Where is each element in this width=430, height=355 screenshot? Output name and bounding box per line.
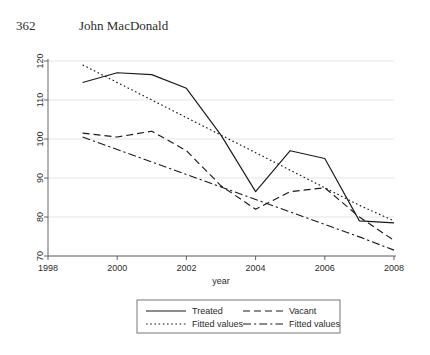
x-tick-label: 1998 [38,263,58,273]
author-name: John MacDonald [79,18,168,34]
legend-label: Fitted values [289,319,341,329]
data-series [83,65,394,250]
series-line-dash-dot [83,137,394,250]
axes [48,59,396,256]
gridlines [48,61,394,256]
y-tick-label: 70 [35,251,45,261]
x-axis-title: year [212,276,230,286]
y-tick-label: 80 [35,212,45,222]
figure-container: 708090100110120 199820002002200420062008… [0,46,430,346]
x-tick-label: 2004 [246,263,266,273]
y-axis-ticks: 708090100110120 [35,53,48,261]
series-line-dashed [83,131,394,240]
page-number: 362 [16,18,36,34]
y-tick-label: 100 [35,131,45,146]
x-tick-label: 2008 [384,263,404,273]
line-chart: 708090100110120 199820002002200420062008… [0,46,430,346]
legend-label: Fitted values [192,319,244,329]
x-tick-label: 2006 [315,263,335,273]
chart-legend[interactable]: TreatedVacantFitted valuesFitted values [137,300,341,333]
y-tick-label: 120 [35,53,45,68]
y-tick-label: 90 [35,173,45,183]
x-tick-label: 2000 [107,263,127,273]
y-tick-label: 110 [35,93,45,107]
page-root: 362 John MacDonald 708090100110120 19982… [0,0,430,355]
running-header: 362 John MacDonald [0,18,430,40]
x-axis-ticks: 199820002002200420062008 [38,256,404,273]
series-line-solid [83,73,394,223]
legend-label: Treated [192,306,223,316]
x-tick-label: 2002 [176,263,196,273]
legend-label: Vacant [289,306,317,316]
